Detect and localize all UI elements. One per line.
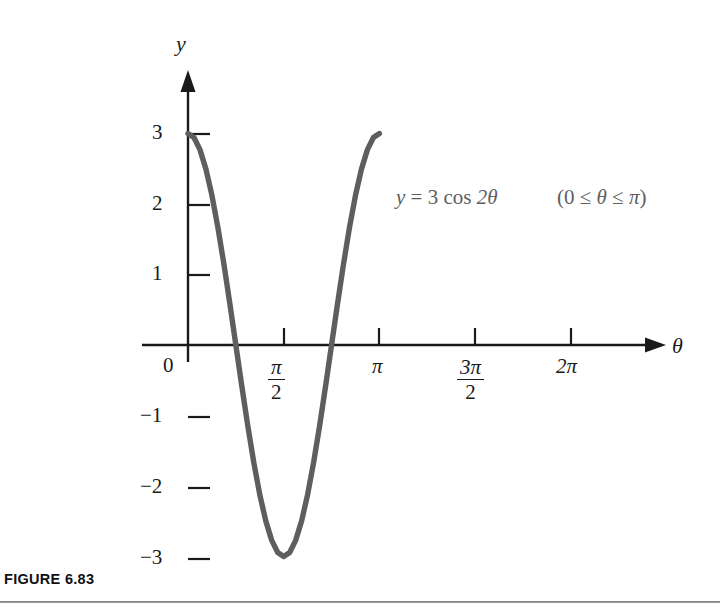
domain-relation-2: ≤: [612, 185, 624, 209]
x-tick-3pi-over-2-denominator: 2: [457, 380, 484, 403]
y-tick-label-neg3: −3: [140, 547, 162, 568]
domain-upper-bound: π: [629, 185, 640, 209]
x-tick-label-pi: π: [372, 356, 383, 377]
domain-relation-1: ≤: [580, 185, 592, 209]
domain-lower-bound: 0: [564, 185, 575, 209]
x-tick-pi-over-2-numerator: π: [268, 356, 285, 380]
domain-variable: θ: [597, 185, 607, 209]
x-tick-label-2pi: 2π: [556, 356, 577, 377]
y-axis-label: y: [176, 33, 186, 55]
x-axis-label: θ: [672, 335, 683, 357]
x-tick-3pi-over-2-numerator: 3π: [457, 356, 484, 380]
equation-annotation: y = 3 cos 2θ: [396, 187, 498, 208]
y-axis: [181, 70, 196, 362]
y-axis-ticks: [188, 134, 210, 559]
x-tick-label-pi-over-2: π 2: [268, 356, 285, 403]
domain-annotation: (0 ≤ θ ≤ π): [557, 187, 646, 208]
figure-container: y θ 0 3 2 1 −1 −2 −3 π 2 π 3π 2 2π y = 3…: [0, 0, 720, 616]
figure-caption: FIGURE 6.83: [4, 571, 94, 587]
x-tick-label-3pi-over-2: 3π 2: [457, 356, 484, 403]
bottom-divider: [0, 601, 720, 603]
x-axis-ticks: [284, 328, 571, 345]
equation-coefficient: 3: [428, 185, 439, 209]
y-tick-label-1: 1: [152, 263, 163, 284]
origin-label: 0: [163, 355, 174, 376]
equation-lhs: y: [396, 185, 405, 209]
x-axis: [142, 338, 666, 353]
equation-argument: 2θ: [477, 185, 498, 209]
equation-equals: =: [411, 185, 423, 209]
y-tick-label-2: 2: [152, 193, 163, 214]
y-tick-label-3: 3: [152, 122, 163, 143]
domain-close-paren: ): [639, 185, 646, 209]
equation-function: cos: [443, 185, 471, 209]
x-tick-pi-over-2-denominator: 2: [268, 380, 285, 403]
domain-open-paren: (: [557, 185, 564, 209]
graph-canvas: [0, 0, 720, 616]
y-tick-label-neg2: −2: [140, 476, 162, 497]
y-tick-label-neg1: −1: [140, 405, 162, 426]
